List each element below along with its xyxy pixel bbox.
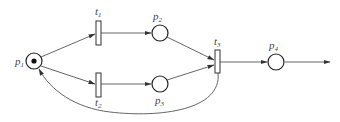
arc-p1-t1 [41,34,95,57]
transition-t2: t2 [95,73,102,110]
place-p3: p3 [152,76,168,108]
place-p1: p1 [14,53,42,69]
place-p2: p2 [152,10,168,41]
svg-text:p2: p2 [152,10,163,24]
arc-t3-p1-feedback [39,69,218,114]
arc-p1-t2 [41,66,95,84]
transition-t3: t3 [214,35,221,73]
arc-p2-t3 [167,37,214,60]
arc-p3-t3 [167,65,214,80]
svg-text:t1: t1 [95,5,102,19]
svg-text:p1: p1 [14,55,24,69]
svg-text:p3: p3 [154,94,165,108]
token-dot [31,58,36,63]
place-p4: p4 [268,39,284,70]
svg-text:t3: t3 [214,35,221,49]
petri-net-diagram: p1 p2 p3 p4 t1 t2 t3 [0,0,340,122]
transition-t1: t1 [95,5,102,45]
svg-text:p4: p4 [268,39,279,53]
svg-text:t2: t2 [95,96,102,110]
